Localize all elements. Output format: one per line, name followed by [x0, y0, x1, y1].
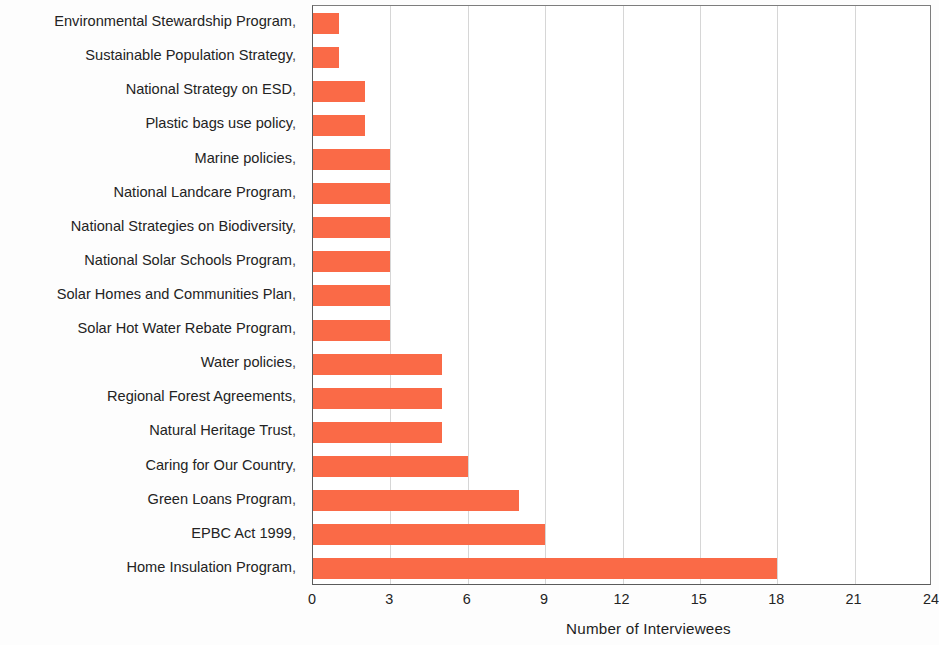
bar[interactable] [313, 422, 442, 443]
category-label-text: Water policies [201, 354, 292, 370]
category-tick-mark: , [292, 388, 296, 404]
category-label: Regional Forest Agreements, [107, 389, 296, 404]
category-tick-mark: , [292, 184, 296, 200]
bar[interactable] [313, 251, 390, 272]
category-tick-mark: , [292, 320, 296, 336]
category-tick-mark: , [292, 491, 296, 507]
bar[interactable] [313, 354, 442, 375]
category-tick-mark: , [292, 150, 296, 166]
category-label: Sustainable Population Strategy, [85, 48, 296, 63]
category-label: Marine policies, [195, 151, 296, 166]
x-tick-label: 24 [923, 592, 939, 606]
category-tick-mark: , [292, 354, 296, 370]
category-label-text: Natural Heritage Trust [149, 422, 292, 438]
category-label: EPBC Act 1999, [191, 526, 296, 541]
category-label-text: National Solar Schools Program [84, 252, 292, 268]
bar[interactable] [313, 285, 390, 306]
category-label: Natural Heritage Trust, [149, 423, 296, 438]
category-label: Home Insulation Program, [126, 560, 296, 575]
category-label-text: Environmental Stewardship Program [54, 13, 292, 29]
category-label: Solar Hot Water Rebate Program, [78, 321, 296, 336]
category-axis-labels: Environmental Stewardship Program,Sustai… [0, 5, 306, 585]
x-tick-label: 12 [613, 592, 629, 606]
x-axis-title: Number of Interviewees [0, 620, 939, 637]
bar[interactable] [313, 149, 390, 170]
category-label-text: Plastic bags use policy [145, 115, 292, 131]
category-label-text: Marine policies [195, 150, 292, 166]
category-label: Water policies, [201, 355, 296, 370]
bar[interactable] [313, 490, 519, 511]
category-tick-mark: , [292, 47, 296, 63]
category-label: Green Loans Program, [148, 492, 296, 507]
category-label: National Landcare Program, [113, 185, 296, 200]
category-label: Plastic bags use policy, [145, 116, 296, 131]
category-label: National Strategies on Biodiversity, [71, 219, 296, 234]
category-tick-mark: , [292, 13, 296, 29]
category-label-text: National Strategies on Biodiversity [71, 218, 292, 234]
bar[interactable] [313, 456, 468, 477]
category-label-text: Green Loans Program [148, 491, 292, 507]
category-label: National Solar Schools Program, [84, 253, 296, 268]
x-tick-label: 9 [540, 592, 548, 606]
category-label-text: National Landcare Program [113, 184, 291, 200]
category-label-text: Sustainable Population Strategy [85, 47, 292, 63]
x-axis-title-text: Number of Interviewees [566, 620, 731, 637]
bar[interactable] [313, 388, 442, 409]
x-tick-label: 0 [308, 592, 316, 606]
category-tick-mark: , [292, 422, 296, 438]
bar[interactable] [313, 13, 339, 34]
category-label-text: EPBC Act 1999 [191, 525, 292, 541]
bar[interactable] [313, 524, 545, 545]
bar[interactable] [313, 81, 365, 102]
category-tick-mark: , [292, 559, 296, 575]
bar[interactable] [313, 115, 365, 136]
category-label: National Strategy on ESD, [126, 82, 296, 97]
x-tick-label: 6 [463, 592, 471, 606]
category-tick-mark: , [292, 218, 296, 234]
category-label-text: Solar Hot Water Rebate Program [78, 320, 292, 336]
category-tick-mark: , [292, 115, 296, 131]
category-tick-mark: , [292, 525, 296, 541]
category-label-text: Home Insulation Program [126, 559, 291, 575]
bar[interactable] [313, 558, 777, 579]
category-tick-mark: , [292, 457, 296, 473]
category-label-text: Caring for Our Country [145, 457, 292, 473]
category-label-text: Regional Forest Agreements [107, 388, 292, 404]
bar[interactable] [313, 183, 390, 204]
category-label: Environmental Stewardship Program, [54, 14, 296, 29]
category-label-text: National Strategy on ESD [126, 81, 292, 97]
bar[interactable] [313, 320, 390, 341]
plot-area [312, 5, 931, 585]
category-label: Caring for Our Country, [145, 458, 296, 473]
bar-chart-figure: Environmental Stewardship Program,Sustai… [0, 0, 939, 645]
x-tick-label: 18 [768, 592, 784, 606]
bar[interactable] [313, 217, 390, 238]
category-label: Solar Homes and Communities Plan, [57, 287, 296, 302]
category-tick-mark: , [292, 286, 296, 302]
x-tick-label: 21 [846, 592, 862, 606]
x-tick-label: 15 [691, 592, 707, 606]
bar[interactable] [313, 47, 339, 68]
category-tick-mark: , [292, 81, 296, 97]
category-tick-mark: , [292, 252, 296, 268]
category-label-text: Solar Homes and Communities Plan [57, 286, 292, 302]
x-tick-label: 3 [385, 592, 393, 606]
bar-rows [313, 6, 930, 584]
